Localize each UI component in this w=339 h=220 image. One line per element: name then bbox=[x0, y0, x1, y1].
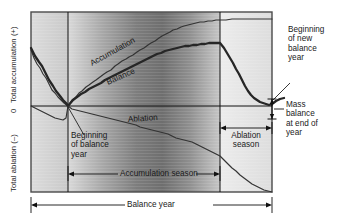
background-bands bbox=[31, 12, 272, 192]
ablation-curve-label: Ablation bbox=[127, 112, 158, 124]
annotation-begin-balance-year: Beginning of balance year bbox=[71, 131, 109, 159]
annotation-accumulation-season: Accumulation season bbox=[120, 169, 198, 178]
annotation-begin-new-balance-year: Beginning of new balance year bbox=[288, 25, 324, 63]
annotation-mass-balance-at-end-of-year: Mass balance at end of year bbox=[286, 100, 318, 138]
annotation-ablation-season: Ablation season bbox=[224, 131, 268, 150]
figure-root: Total accumulation (+) 0 Total ablation … bbox=[0, 0, 339, 220]
annotation-balance-year: Balance year bbox=[127, 200, 175, 209]
